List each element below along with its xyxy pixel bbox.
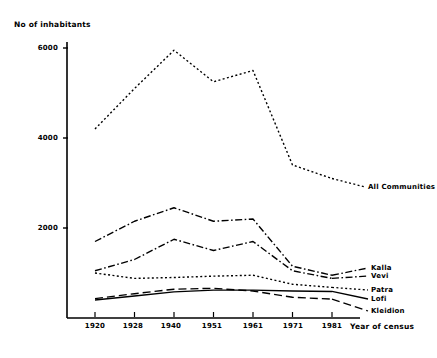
axes — [63, 42, 360, 318]
chart-figure: No of inhabitants Year of census 6000 40… — [0, 0, 437, 358]
leader-line-all-communities — [332, 179, 365, 188]
series-line-kalla — [95, 208, 332, 276]
leader-line-kalla — [332, 268, 368, 275]
plot-area — [0, 0, 437, 358]
leader-line-patra — [332, 287, 368, 290]
leader-line-kleidion — [332, 299, 368, 311]
series-line-vevi — [95, 239, 332, 278]
leader-line-vevi — [332, 276, 368, 278]
x-axis-ticks — [95, 312, 332, 317]
series-lines — [95, 50, 332, 300]
label-leader-lines — [332, 179, 368, 312]
series-line-patra — [95, 273, 332, 287]
series-line-all-communities — [95, 50, 332, 178]
series-line-lofi — [95, 290, 332, 300]
leader-line-lofi — [332, 291, 368, 299]
